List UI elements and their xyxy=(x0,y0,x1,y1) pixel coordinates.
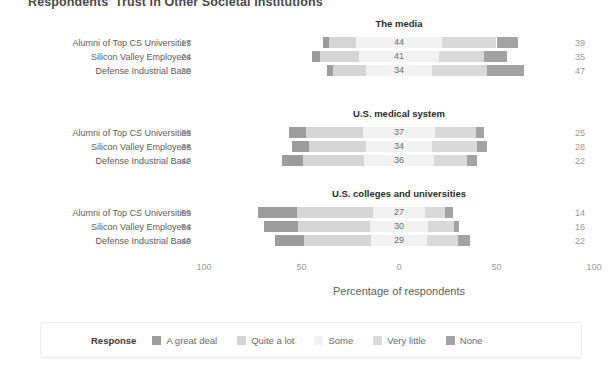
row-group-label: Silicon Valley Employees xyxy=(91,221,191,234)
bar-segment xyxy=(454,221,460,232)
bar-segment xyxy=(432,65,487,76)
bar-segment xyxy=(432,141,477,152)
legend-item-3[interactable]: Some xyxy=(314,335,353,346)
bar-segment xyxy=(435,127,476,138)
bar-segment xyxy=(264,221,297,232)
row-left-total: 42 xyxy=(181,155,207,168)
legend-item-label: Very little xyxy=(387,335,426,346)
row-right-total: 47 xyxy=(575,65,607,78)
bar-segment xyxy=(275,235,304,246)
legend-item-4[interactable]: Very little xyxy=(373,335,426,346)
bar-segment xyxy=(282,155,303,166)
bar-segment xyxy=(309,141,366,152)
legend-item-5[interactable]: None xyxy=(446,335,483,346)
row-group-label: Defense Industrial Base xyxy=(95,155,191,168)
panel-2: U.S. medical systemAlumni of Top CS Univ… xyxy=(0,108,616,174)
panel-title-text: U.S. medical system xyxy=(353,108,445,119)
row-right-total: 22 xyxy=(575,155,607,168)
legend-item-label: None xyxy=(460,335,483,346)
bar-segment xyxy=(458,235,470,246)
row-right-total: 22 xyxy=(575,235,607,248)
chart-root: Respondents' Trust in Other Societal Ins… xyxy=(0,0,616,373)
legend-title: Response xyxy=(91,335,136,346)
bar-segment xyxy=(477,141,487,152)
bar-segment xyxy=(289,127,307,138)
bar-segment xyxy=(320,51,359,62)
row-left-total: 17 xyxy=(181,37,207,50)
panel-1: The mediaAlumni of Top CS Universities17… xyxy=(0,18,616,84)
legend-item-label: A great deal xyxy=(166,335,217,346)
legend-swatch-icon xyxy=(237,336,246,345)
row-left-total: 24 xyxy=(181,51,207,64)
bar-segment xyxy=(303,155,363,166)
bar-segment-label: 34 xyxy=(366,65,432,76)
legend-item-label: Some xyxy=(328,335,353,346)
panel-title-text: The media xyxy=(376,18,423,29)
bar-segment xyxy=(476,127,484,138)
x-tick-label: 0 xyxy=(396,262,401,272)
bar-segment xyxy=(312,51,320,62)
row-group-label: Alumni of Top CS Universities xyxy=(73,207,191,220)
row-left-total: 38 xyxy=(181,127,207,140)
bar-row: Silicon Valley Employees382834 xyxy=(0,141,616,154)
legend-swatch-icon xyxy=(373,336,382,345)
row-right-total: 25 xyxy=(575,127,607,140)
bar-segment xyxy=(442,37,497,48)
bar-segment xyxy=(298,221,370,232)
bar-segment-label: 44 xyxy=(356,37,442,48)
row-left-total: 38 xyxy=(181,141,207,154)
bar-segment-label: 37 xyxy=(363,127,435,138)
row-right-total: 14 xyxy=(575,207,607,220)
bar-segment xyxy=(292,141,310,152)
bar-segment-label: 41 xyxy=(359,51,439,62)
bar-row: Silicon Valley Employees243541 xyxy=(0,51,616,64)
figure-title: Respondents' Trust in Other Societal Ins… xyxy=(28,0,323,9)
bar-row: Defense Industrial Base492229 xyxy=(0,235,616,248)
legend-swatch-icon xyxy=(446,336,455,345)
bar-row: Alumni of Top CS Universities382537 xyxy=(0,127,616,140)
row-group-label: Silicon Valley Employees xyxy=(91,141,191,154)
bar-row: Defense Industrial Base422236 xyxy=(0,155,616,168)
row-group-label: Alumni of Top CS Universities xyxy=(73,127,191,140)
bar-segment-label: 29 xyxy=(371,235,428,246)
row-group-label: Alumni of Top CS Universities xyxy=(73,37,191,50)
row-group-label: Silicon Valley Employees xyxy=(91,51,191,64)
row-group-label: Defense Industrial Base xyxy=(95,65,191,78)
bar-segment-label: 27 xyxy=(373,207,426,218)
bar-segment-label: 36 xyxy=(364,155,434,166)
panel-title-text: U.S. colleges and universities xyxy=(332,188,466,199)
x-tick-label: 50 xyxy=(491,262,501,272)
bar-segment xyxy=(484,51,507,62)
row-left-total: 20 xyxy=(181,65,207,78)
legend-swatch-icon xyxy=(152,336,161,345)
bar-segment xyxy=(487,65,524,76)
x-axis-ticks: 10050050100 xyxy=(0,262,616,276)
legend-item-1[interactable]: A great deal xyxy=(152,335,217,346)
bar-segment xyxy=(306,127,363,138)
x-tick-label: 50 xyxy=(296,262,306,272)
x-axis-title: Percentage of respondents xyxy=(333,285,465,297)
bar-segment xyxy=(497,37,518,48)
row-right-total: 16 xyxy=(575,221,607,234)
bar-segment xyxy=(434,155,467,166)
row-group-label: Defense Industrial Base xyxy=(95,235,191,248)
legend-item-2[interactable]: Quite a lot xyxy=(237,335,294,346)
bar-segment xyxy=(304,235,370,246)
row-right-total: 35 xyxy=(575,51,607,64)
bar-segment-label: 34 xyxy=(366,141,432,152)
bar-segment-label: 30 xyxy=(370,221,429,232)
bar-row: Alumni of Top CS Universities173944 xyxy=(0,37,616,50)
x-tick-label: 100 xyxy=(196,262,211,272)
legend-item-label: Quite a lot xyxy=(251,335,294,346)
bar-segment xyxy=(329,37,356,48)
row-left-total: 59 xyxy=(181,207,207,220)
bar-segment xyxy=(467,155,477,166)
bar-segment xyxy=(445,207,453,218)
bar-segment xyxy=(258,207,297,218)
bar-segment xyxy=(427,235,458,246)
bar-row: Silicon Valley Employees541630 xyxy=(0,221,616,234)
panel-3: U.S. colleges and universitiesAlumni of … xyxy=(0,188,616,254)
legend: ResponseA great dealQuite a lotSomeVery … xyxy=(40,322,582,358)
bar-segment xyxy=(428,221,453,232)
bar-segment xyxy=(297,207,373,218)
